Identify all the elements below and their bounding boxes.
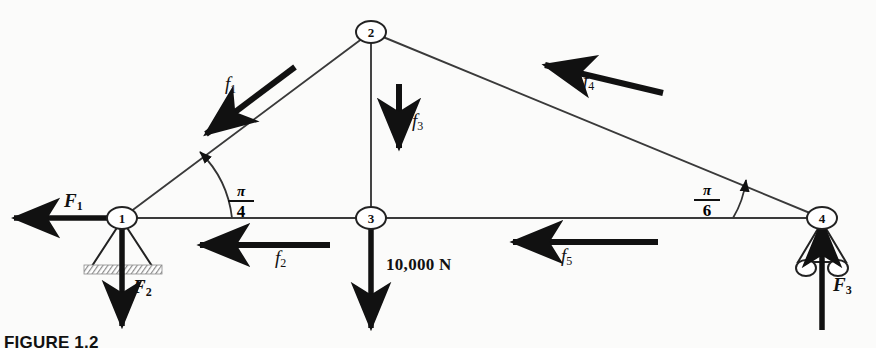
force-label-f3: f3 xyxy=(412,110,423,134)
figure-caption: FIGURE 1.2 xyxy=(4,333,99,348)
force-arrow-f4 xyxy=(545,65,663,93)
node-label-4: 4 xyxy=(819,211,826,226)
reaction-label-F3: F3 xyxy=(833,274,852,298)
member-2-4 xyxy=(371,32,822,218)
truss-figure: 1 2 3 4 f1 f2 f3 f4 f5 F1 F2 F3 10,000 N… xyxy=(0,0,876,348)
angle-label-pi-4: π 4 xyxy=(228,184,254,220)
node-label-1: 1 xyxy=(119,211,126,226)
node-label-3: 3 xyxy=(368,211,375,226)
roller-wheel-left xyxy=(796,260,816,276)
reaction-label-F1: F1 xyxy=(64,190,83,214)
truss-diagram-canvas: 1 2 3 4 xyxy=(0,0,876,348)
applied-load-label: 10,000 N xyxy=(386,255,452,275)
force-arrow-f1 xyxy=(206,67,295,134)
angle-label-pi-6: π 6 xyxy=(694,183,720,219)
reaction-label-F2: F2 xyxy=(133,276,152,300)
force-label-f2: f2 xyxy=(275,247,286,271)
force-label-f5: f5 xyxy=(561,245,572,269)
node-label-2: 2 xyxy=(368,25,375,40)
force-label-f1: f1 xyxy=(225,73,236,97)
force-label-f4: f4 xyxy=(583,70,594,94)
